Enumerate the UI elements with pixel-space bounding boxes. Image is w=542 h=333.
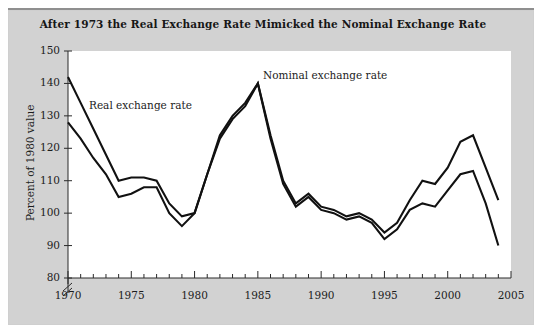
y-tick-label: 80 bbox=[22, 271, 60, 283]
y-tick-label: 140 bbox=[22, 76, 60, 88]
y-tick-label: 100 bbox=[22, 206, 60, 218]
chart-panel bbox=[8, 8, 534, 325]
chart-figure: After 1973 the Real Exchange Rate Mimick… bbox=[0, 0, 542, 333]
x-tick-label: 1970 bbox=[43, 289, 93, 301]
chart-title: After 1973 the Real Exchange Rate Mimick… bbox=[0, 18, 526, 30]
x-tick-label: 2005 bbox=[486, 289, 536, 301]
y-tick-label: 150 bbox=[22, 44, 60, 56]
x-tick-label: 1985 bbox=[233, 289, 283, 301]
x-tick-label: 1975 bbox=[106, 289, 156, 301]
y-tick-label: 110 bbox=[22, 174, 60, 186]
y-axis-title: Percent of 1980 value bbox=[24, 104, 36, 220]
y-tick-label: 90 bbox=[22, 239, 60, 251]
x-tick-label: 1980 bbox=[170, 289, 220, 301]
x-tick-label: 2000 bbox=[423, 289, 473, 301]
x-tick-label: 1990 bbox=[296, 289, 346, 301]
series-annotation-nominal: Nominal exchange rate bbox=[263, 69, 387, 81]
series-annotation-real: Real exchange rate bbox=[89, 99, 192, 111]
y-tick-label: 130 bbox=[22, 109, 60, 121]
y-tick-label: 120 bbox=[22, 141, 60, 153]
x-tick-label: 1995 bbox=[359, 289, 409, 301]
